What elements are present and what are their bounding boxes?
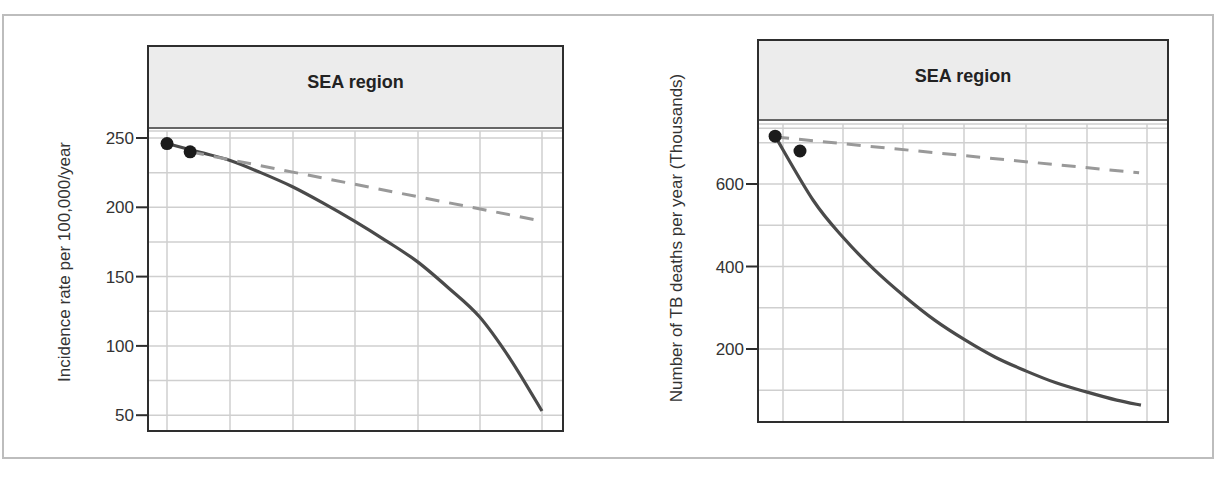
incidence-chart: SEA region50100150200250Incidence rate p… xyxy=(55,46,563,431)
data-point xyxy=(184,145,197,158)
y-tick-label: 400 xyxy=(716,258,744,277)
y-tick-label: 250 xyxy=(106,129,134,148)
y-tick-label: 200 xyxy=(716,340,744,359)
data-point xyxy=(793,145,806,158)
data-point xyxy=(769,130,782,143)
deaths-chart: SEA region200400600Number of TB deaths p… xyxy=(667,40,1168,422)
data-point xyxy=(161,137,174,150)
y-tick-label: 200 xyxy=(106,198,134,217)
y-tick-label: 50 xyxy=(115,406,134,425)
charts-canvas: SEA region50100150200250Incidence rate p… xyxy=(0,0,1220,479)
chart-title: SEA region xyxy=(307,72,403,92)
y-tick-label: 150 xyxy=(106,268,134,287)
y-axis-label: Incidence rate per 100,000/year xyxy=(55,142,74,382)
y-tick-label: 100 xyxy=(106,337,134,356)
y-axis-label: Number of TB deaths per year (Thousands) xyxy=(667,74,686,403)
y-tick-label: 600 xyxy=(716,175,744,194)
chart-title: SEA region xyxy=(915,66,1011,86)
